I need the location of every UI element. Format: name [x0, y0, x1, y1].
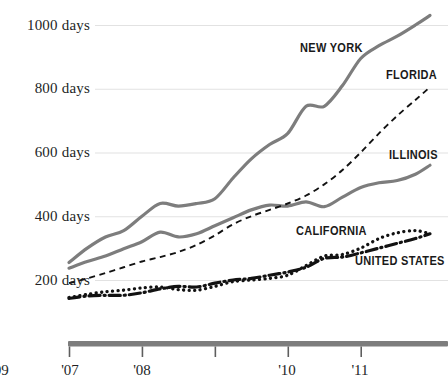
- y-axis-tick-600: 600 days: [4, 144, 90, 161]
- y-axis-tick-400: 400 days: [4, 208, 90, 225]
- y-axis-tick-200: 200 days: [4, 272, 90, 289]
- series-label-illinois: ILLINOIS: [389, 147, 438, 161]
- series-label-new-york: NEW YORK: [300, 40, 363, 54]
- y-axis-tick-800: 800 days: [4, 80, 90, 97]
- line-chart-plot: [0, 0, 448, 387]
- series-line-new-york: [69, 15, 430, 262]
- series-label-florida: FLORIDA: [386, 67, 437, 81]
- x-axis-bar: [68, 341, 448, 347]
- x-axis-tick-07: '07: [61, 362, 79, 379]
- x-axis-tick-11: '11: [351, 362, 368, 379]
- series-label-california: CALIFORNIA: [296, 223, 367, 237]
- series-label-united-states: UNITED STATES: [355, 253, 445, 267]
- x-axis-tick-09: '09: [0, 362, 9, 379]
- chart-container: 1000 days 800 days 600 days 400 days 200…: [0, 0, 448, 387]
- y-axis-tick-1000: 1000 days: [4, 17, 90, 34]
- x-axis-tick-10: '10: [278, 362, 296, 379]
- x-axis-tick-08: '08: [133, 362, 151, 379]
